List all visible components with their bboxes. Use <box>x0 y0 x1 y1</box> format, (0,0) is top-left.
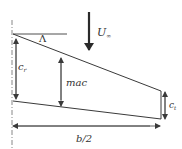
freestream-label: U∞ <box>97 26 111 39</box>
semi-span-label: b/2 <box>76 133 92 144</box>
wing-planform-diagram: Λ U∞ cr mac ct b/2 <box>0 0 182 149</box>
root-chord-label: cr <box>18 61 28 73</box>
mac-label: mac <box>66 77 87 88</box>
trailing-edge <box>13 101 161 119</box>
sweep-angle-label: Λ <box>38 33 47 44</box>
tip-chord-label: ct <box>169 100 177 111</box>
